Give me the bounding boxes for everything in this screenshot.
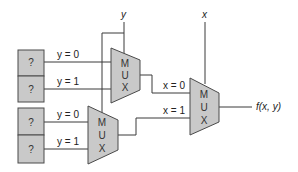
input-top-1-label: ?: [28, 84, 34, 95]
mux-final-letter-x: X: [201, 115, 208, 126]
input-bottom-0-label: ?: [28, 117, 34, 128]
mux-final-letter-u: U: [200, 102, 207, 113]
label-bottom-y0: y = 0: [57, 109, 79, 120]
input-bottom-1-label: ?: [28, 144, 34, 155]
mux-bottom-letter-u: U: [98, 130, 105, 141]
wire-bottom-out: [118, 118, 190, 135]
mux-bottom-letter-m: M: [98, 117, 106, 128]
select-y-label: y: [120, 9, 127, 20]
label-final-x0: x = 0: [163, 80, 185, 91]
select-x-label: x: [201, 9, 208, 20]
output-label: f(x, y): [256, 101, 281, 112]
mux-bottom-letter-x: X: [99, 143, 106, 154]
mux-top-letter-u: U: [121, 70, 128, 81]
mux-final-letter-m: M: [200, 89, 208, 100]
label-top-y0: y = 0: [57, 49, 79, 60]
input-top-0-label: ?: [28, 57, 34, 68]
label-top-y1: y = 1: [57, 76, 79, 87]
label-bottom-y1: y = 1: [57, 136, 79, 147]
mux-top-letter-x: X: [122, 82, 129, 93]
mux-diagram: ? ? ? ? M U X M U X M U X y = 0 y = 1 y …: [0, 0, 298, 172]
label-final-x1: x = 1: [163, 105, 185, 116]
mux-top-letter-m: M: [121, 58, 129, 69]
